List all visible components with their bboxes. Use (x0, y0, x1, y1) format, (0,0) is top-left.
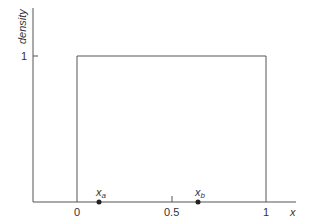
x-axis-label: x (289, 206, 296, 218)
uniform-density-chart: density 1 0 0.5 1 x xa xb (0, 0, 315, 224)
density-curve (77, 56, 266, 202)
y-tick-label-1: 1 (21, 50, 27, 62)
point-label-xa: xa (95, 186, 107, 200)
y-axis-label: density (16, 8, 28, 44)
x-tick-label-1: 1 (263, 206, 269, 218)
point-label-xb: xb (194, 186, 206, 200)
point-xb (196, 200, 201, 205)
point-xa (97, 200, 102, 205)
x-tick-label-0.5: 0.5 (164, 206, 179, 218)
x-tick-label-0: 0 (74, 206, 80, 218)
